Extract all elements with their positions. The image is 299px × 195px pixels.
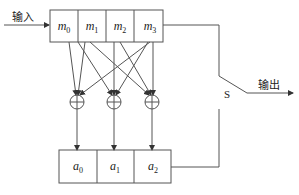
top-cell-m0: m0	[49, 19, 79, 38]
top-cell-m2: m2	[105, 19, 135, 38]
adder-2	[145, 95, 159, 109]
top-cell-m3: m3	[135, 19, 165, 38]
input-label: 输入	[12, 12, 34, 24]
switch-label: S	[224, 88, 230, 100]
top-cell-m1: m1	[77, 19, 107, 38]
bottom-cell-a1: a1	[100, 159, 130, 178]
bottom-cell-a2: a2	[138, 159, 168, 178]
output-label: 输出	[258, 80, 280, 92]
adder-1	[107, 95, 121, 109]
bottom-cell-a0: a0	[63, 159, 93, 178]
adder-0	[70, 95, 84, 109]
